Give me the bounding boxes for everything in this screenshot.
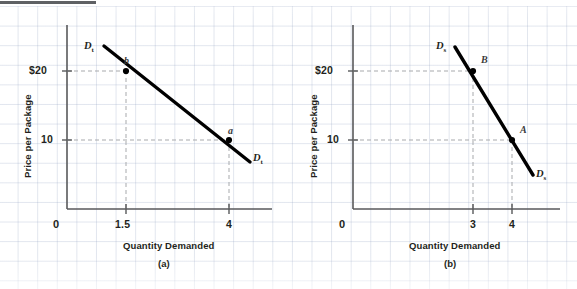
y-axis-title: Price per Package [308, 94, 319, 178]
chart-panel-b: $20 10 0 3 4 Price per Package Quantity … [288, 0, 577, 289]
origin-label: 0 [339, 218, 345, 230]
y-tick-label-20: $20 [315, 64, 333, 76]
curve-label-dt-bottom-subscript: t [261, 158, 263, 166]
point-label-A: A [520, 124, 527, 135]
y-tick-label-20: $20 [29, 64, 47, 76]
curve-label-ds-top-subscript: s [444, 46, 447, 54]
point-label-a: a [228, 125, 233, 136]
data-point-a [226, 137, 232, 143]
curve-label-dt-bottom: Dt [253, 152, 263, 166]
curve-label-ds-bottom-letter: D [536, 168, 544, 179]
data-point-b [123, 68, 129, 74]
curve-label-dt-top-subscript: t [92, 46, 94, 54]
data-point-A [509, 137, 515, 143]
y-axis-title: Price per Package [22, 94, 33, 178]
x-axis-title: Quantity Demanded [409, 240, 500, 251]
curve-label-ds-bottom: Ds [536, 168, 546, 182]
curve-label-ds-bottom-subscript: s [544, 174, 547, 182]
demand-curve-ds [455, 47, 533, 175]
chart-panel-a: $20 10 0 1.5 4 Price per Package Quantit… [0, 0, 289, 289]
point-label-B: B [481, 54, 488, 65]
point-label-b: b [124, 55, 129, 66]
data-point-B [470, 68, 476, 74]
curve-label-ds-top: Ds [436, 40, 446, 54]
x-axis-title: Quantity Demanded [123, 240, 214, 251]
x-tick-label-4: 4 [226, 218, 232, 230]
x-tick-label-3: 3 [470, 218, 476, 230]
y-tick-label-10: 10 [327, 133, 339, 145]
panel-caption: (b) [444, 258, 456, 269]
curve-label-dt-bottom-letter: D [253, 152, 261, 163]
panel-caption: (a) [158, 258, 170, 269]
x-tick-label-4: 4 [509, 218, 515, 230]
curve-label-ds-top-letter: D [436, 40, 444, 51]
x-tick-label-1point5: 1.5 [115, 218, 130, 230]
curve-label-dt-top-letter: D [84, 40, 92, 51]
curve-label-dt-top: Dt [84, 40, 94, 54]
y-tick-label-10: 10 [41, 133, 53, 145]
origin-label: 0 [53, 218, 59, 230]
